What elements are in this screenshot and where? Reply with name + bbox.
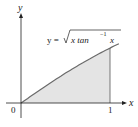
x-axis-arrow-icon <box>122 101 127 105</box>
y-axis-arrow-icon <box>19 13 23 18</box>
chart: y x 0 1 y = x tan −1 x <box>0 0 138 127</box>
svg-text:−1: −1 <box>100 31 106 37</box>
x-axis-label: x <box>128 97 134 108</box>
svg-text:y =: y = <box>47 35 59 45</box>
function-label: y = x tan −1 x <box>47 30 121 45</box>
svg-text:x: x <box>109 35 114 45</box>
y-axis-label: y <box>17 2 23 13</box>
shaded-area <box>21 48 110 103</box>
svg-text:x tan: x tan <box>70 35 89 45</box>
x-tick-0: 0 <box>11 105 16 115</box>
x-tick-1: 1 <box>108 105 113 115</box>
